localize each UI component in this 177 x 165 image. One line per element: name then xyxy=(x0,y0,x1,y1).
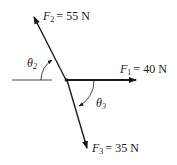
force-f2-vector xyxy=(34,17,66,80)
theta3-label: θ3 xyxy=(96,96,106,111)
theta2-label: θ2 xyxy=(27,56,37,71)
force-diagram: F2=55 N F1=40 N F3=35 N θ2 θ3 xyxy=(0,0,177,165)
force-f2-label: F2=55 N xyxy=(42,9,90,24)
theta2-angle-arc xyxy=(41,60,52,80)
force-f3-vector xyxy=(67,80,87,148)
origin-point xyxy=(65,78,69,82)
force-f1-label: F1=40 N xyxy=(119,62,167,77)
theta3-angle-arc xyxy=(79,80,94,106)
force-f3-label: F3=35 N xyxy=(91,141,139,156)
